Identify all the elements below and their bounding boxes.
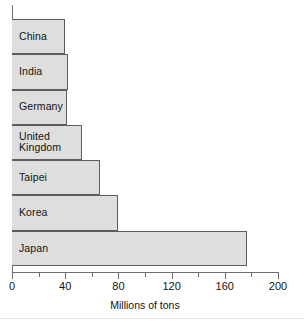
x-axis-ticks bbox=[12, 273, 279, 279]
bar-row: India bbox=[12, 54, 278, 89]
x-tick-major bbox=[65, 273, 66, 279]
bar-label: Germany bbox=[19, 101, 63, 113]
bar-label: United Kingdom bbox=[19, 131, 61, 154]
bar-chart: ChinaIndiaGermanyUnited KingdomTaipeiKor… bbox=[0, 0, 304, 322]
bar-row: Korea bbox=[12, 195, 278, 230]
bar-label: India bbox=[19, 66, 42, 78]
x-tick-label: 40 bbox=[59, 280, 71, 293]
bar-row: Japan bbox=[12, 231, 278, 266]
bar-japan: Japan bbox=[12, 231, 247, 266]
bar-taipei: Taipei bbox=[12, 160, 100, 195]
page-edge-artifact bbox=[0, 318, 304, 319]
bar-label: Taipei bbox=[19, 172, 47, 184]
x-tick-major bbox=[225, 273, 226, 279]
x-tick-label: 120 bbox=[162, 280, 180, 293]
x-tick-label: 200 bbox=[269, 280, 287, 293]
x-tick-major bbox=[12, 273, 13, 279]
x-tick-minor bbox=[92, 273, 93, 277]
bar-row: Taipei bbox=[12, 160, 278, 195]
bar-india: India bbox=[12, 54, 68, 89]
x-tick-minor bbox=[251, 273, 252, 277]
x-tick-major bbox=[172, 273, 173, 279]
x-tick-minor bbox=[198, 273, 199, 277]
x-tick-label: 80 bbox=[112, 280, 124, 293]
x-tick-label: 160 bbox=[216, 280, 234, 293]
x-tick-minor bbox=[145, 273, 146, 277]
bar-label: Japan bbox=[19, 243, 48, 255]
x-tick-major bbox=[278, 273, 279, 279]
bar-label: Korea bbox=[19, 207, 48, 219]
bar-label: China bbox=[19, 31, 47, 43]
x-tick-minor bbox=[39, 273, 40, 277]
bar-korea: Korea bbox=[12, 195, 118, 230]
bar-row: Germany bbox=[12, 90, 278, 125]
bar-united-kingdom: United Kingdom bbox=[12, 125, 82, 160]
bar-germany: Germany bbox=[12, 90, 67, 125]
bars-group: ChinaIndiaGermanyUnited KingdomTaipeiKor… bbox=[12, 19, 278, 266]
bar-row: United Kingdom bbox=[12, 125, 278, 160]
bar-china: China bbox=[12, 19, 65, 54]
x-axis-title: Millions of tons bbox=[0, 299, 290, 312]
x-tick-major bbox=[118, 273, 119, 279]
x-axis-tick-labels: 04080120160200 bbox=[0, 280, 304, 294]
x-tick-label: 0 bbox=[9, 280, 15, 293]
bar-row: China bbox=[12, 19, 278, 54]
